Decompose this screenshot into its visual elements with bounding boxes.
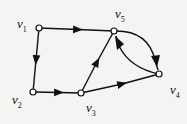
node-v4 — [156, 71, 162, 77]
edge-v4-v5 — [119, 46, 159, 74]
node-v5 — [111, 28, 117, 34]
arrowhead-v5-v4 — [151, 55, 160, 67]
node-v2 — [30, 89, 36, 95]
node-v3 — [78, 90, 84, 96]
edge-v1-v2 — [33, 28, 39, 92]
label-v5: v5 — [115, 7, 125, 24]
label-v3: v3 — [86, 101, 96, 118]
label-v1: v1 — [17, 17, 27, 34]
edge-v1-v5 — [39, 28, 114, 31]
edge-v2-v3 — [33, 92, 81, 93]
node-v1 — [36, 25, 42, 31]
edge-v3-v5 — [81, 31, 114, 93]
edge-v3-v4 — [81, 74, 159, 93]
label-v4: v4 — [170, 83, 180, 100]
label-v2: v2 — [12, 93, 22, 110]
